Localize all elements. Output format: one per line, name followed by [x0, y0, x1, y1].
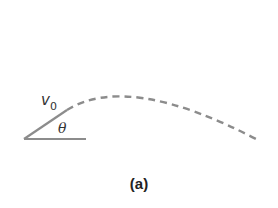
velocity-subscript: 0: [50, 100, 57, 113]
angle-label: θ: [58, 120, 67, 136]
dashed-trajectory: [67, 96, 258, 140]
figure-caption: (a): [130, 175, 148, 192]
projectile-diagram: v 0 θ (a): [0, 0, 278, 208]
